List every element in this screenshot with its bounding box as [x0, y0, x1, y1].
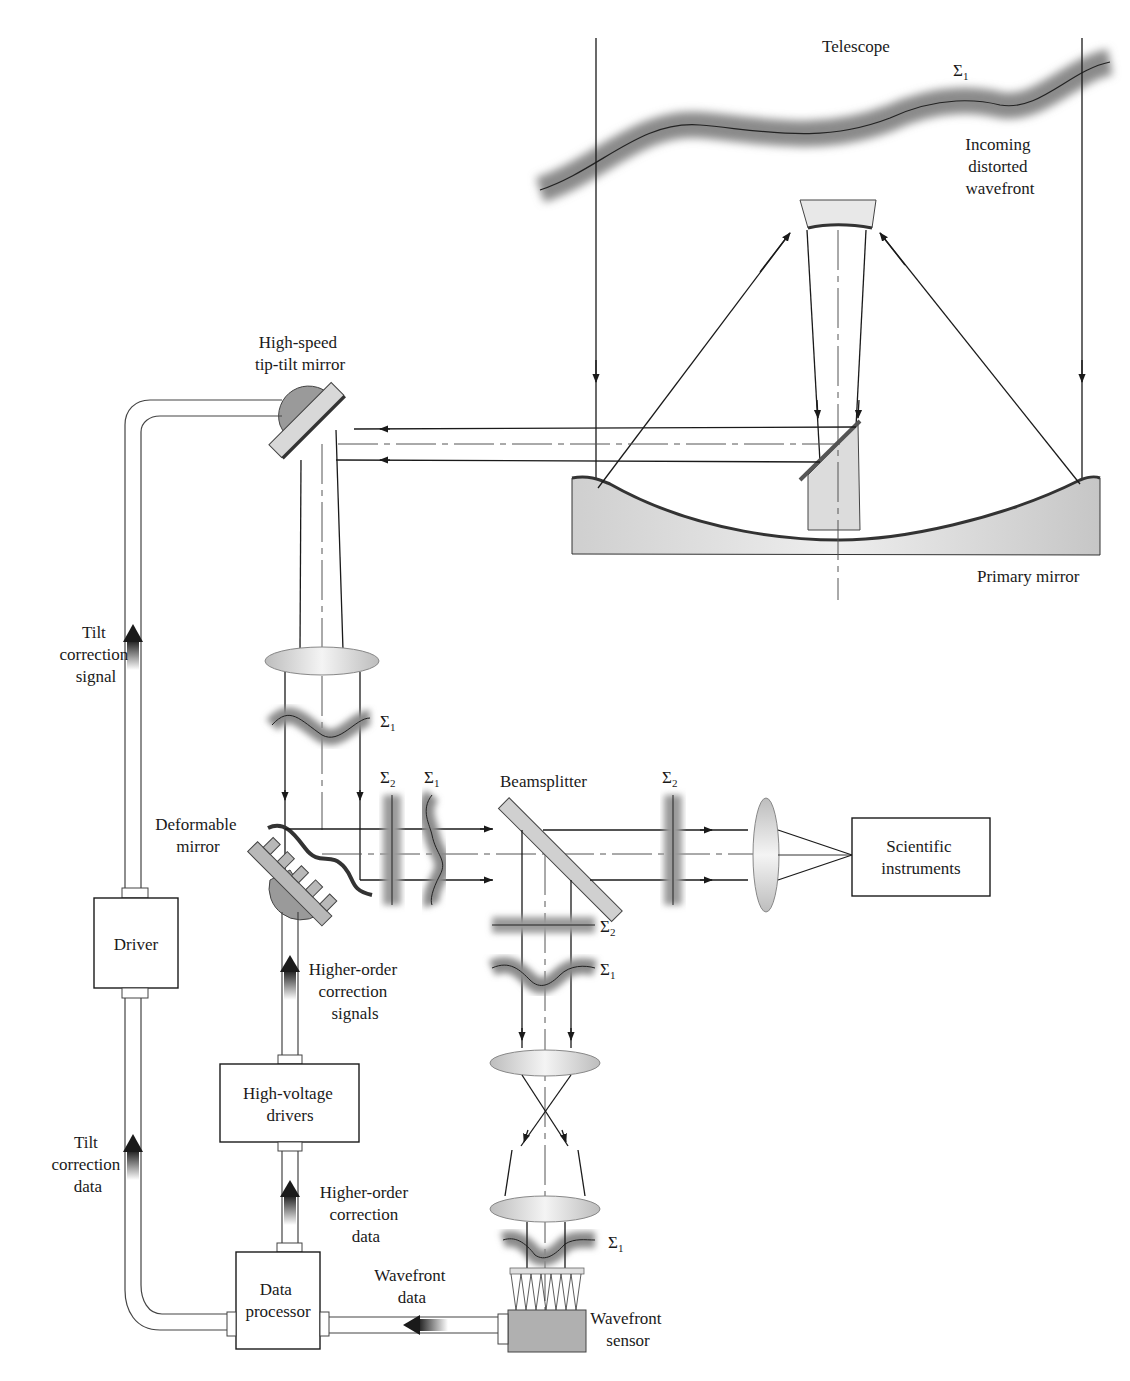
driver: Driver	[94, 888, 178, 998]
tilt-correction-data-label: Tilt correction data	[51, 1133, 124, 1196]
wavefront-sigma2-reflected: Σ2	[492, 917, 615, 938]
wavefront-sigma2-post-dm: Σ2	[380, 768, 401, 905]
higher-order-data-label: Higher-order correction data	[320, 1183, 413, 1246]
svg-text:Σ1: Σ1	[600, 960, 615, 981]
data-processor: Data processor	[227, 1243, 329, 1349]
wavefront-sigma1-reflected: Σ1	[492, 960, 615, 985]
higher-order-data-arrow	[280, 1180, 300, 1225]
incoming-distorted-wavefront-label: Incoming distorted wavefront	[965, 135, 1034, 198]
wavefront-sigma1-sensor: Σ1	[503, 1233, 623, 1258]
collimating-lens	[265, 647, 379, 675]
higher-order-signals-label: Higher-order correction signals	[309, 960, 402, 1023]
telescope-group: Telescope Σ1 Incoming distorted wavefron…	[336, 37, 1110, 600]
svg-text:Wavefront sensor: Wavefront sensor	[590, 1309, 666, 1350]
relay-lens-upper	[490, 1050, 600, 1076]
svg-text:Σ1: Σ1	[608, 1233, 623, 1254]
wavefront-sensor: Wavefront sensor	[498, 1309, 666, 1352]
wavefront-sigma1-post-tiptilt: Σ1	[272, 712, 395, 737]
higher-order-signals-arrow	[280, 955, 300, 1000]
svg-text:Σ2: Σ2	[380, 768, 395, 789]
adaptive-optics-diagram: Telescope Σ1 Incoming distorted wavefron…	[0, 0, 1130, 1381]
scientific-instruments: Scientific instruments	[852, 818, 990, 896]
lenslet-array	[510, 1268, 584, 1310]
deformable-mirror: Deformable mirror	[155, 815, 372, 926]
svg-text:Σ1: Σ1	[424, 768, 439, 789]
high-voltage-drivers: High-voltage drivers	[220, 1055, 359, 1151]
svg-text:Σ2: Σ2	[662, 768, 677, 789]
wavefront-data-arrow	[403, 1315, 448, 1335]
fold-mirror	[808, 424, 860, 530]
tilt-correction-signal-label: Tilt correction signal	[59, 623, 132, 686]
svg-text:Σ1: Σ1	[380, 712, 395, 733]
tilt-correction-data-arrow	[123, 1134, 143, 1180]
telescope-label: Telescope	[822, 37, 890, 56]
wavefront-data-label: Wavefront data	[374, 1266, 450, 1307]
sigma1-top-label: Σ1	[953, 61, 968, 82]
beamsplitter: Beamsplitter	[498, 772, 622, 922]
tip-tilt-mirror-label: High-speed tip-tilt mirror	[255, 333, 346, 374]
relay-lens-lower	[490, 1196, 600, 1222]
svg-text:Driver: Driver	[114, 935, 159, 954]
wavefront-sigma2-transmitted: Σ2	[662, 768, 682, 905]
primary-mirror-label: Primary mirror	[977, 567, 1080, 586]
beamsplitter-label: Beamsplitter	[500, 772, 587, 791]
instrument-lens	[753, 798, 779, 912]
tip-tilt-mirror: High-speed tip-tilt mirror	[255, 333, 346, 460]
wavefront-sigma1-pre-bs: Σ1	[424, 768, 443, 905]
deformable-mirror-label: Deformable mirror	[155, 815, 240, 856]
